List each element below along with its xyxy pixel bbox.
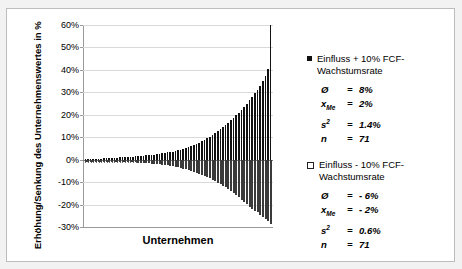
bar-positive [249, 100, 251, 159]
legend-stat-equals: = [347, 224, 359, 238]
legend-positive-head: Einfluss + 10% FCF-Wachstumsrate [307, 53, 457, 76]
bar-positive [270, 25, 272, 160]
y-tick-label: 20% [61, 110, 79, 120]
plot-canvas: 60%50%40%30%20%10%0%-10%-20%-30% [83, 25, 273, 227]
bar-positive [198, 143, 200, 160]
legend-stat-symbol: s2 [321, 115, 347, 132]
bar-positive [182, 149, 184, 160]
legend-positive: Einfluss + 10% FCF-Wachstumsrate Ø=8%xMe… [307, 53, 457, 146]
bar-positive [246, 104, 248, 160]
y-tick-50 [80, 47, 83, 48]
bar-positive [167, 152, 169, 159]
bar-positive [164, 153, 166, 160]
bar-positive [204, 140, 206, 160]
legend-negative-head: Einfluss - 10% FCF-Wachstumsrate [307, 159, 457, 182]
legend-stat-symbol: xMe [321, 97, 347, 115]
bar-positive [243, 107, 245, 160]
bar-positive [222, 127, 224, 159]
bar-positive [212, 135, 214, 160]
legend-stat-symbol: Ø [321, 189, 347, 203]
bar-positive [180, 150, 182, 160]
bar-positive [190, 146, 192, 159]
legend-positive-stats: Ø=8%xMe=2%s2=1.4%n=71 [321, 83, 457, 146]
y-tick--30 [80, 227, 83, 228]
bar-positive [196, 144, 198, 160]
y-tick-label: 0% [66, 155, 79, 165]
bar-positive [251, 97, 253, 160]
y-tick-label: -10% [58, 177, 79, 187]
hollow-square-icon [307, 162, 314, 169]
y-tick--10 [80, 182, 83, 183]
legend-negative-stats: Ø=- 6%xMe=- 2%s2=0.6%n=71 [321, 189, 457, 252]
bar-positive [172, 152, 174, 160]
legend-stat-equals: = [347, 97, 359, 111]
legend-stat-value: 71 [359, 132, 370, 146]
legend-stat-symbol: xMe [321, 203, 347, 221]
y-tick-label: 50% [61, 42, 79, 52]
legend-stat-value: 8% [359, 83, 373, 97]
bar-positive [169, 152, 171, 160]
legend-stat-equals: = [347, 203, 359, 217]
bar-positive [230, 120, 232, 159]
legend-stat-equals: = [347, 189, 359, 203]
bar-positive [257, 90, 259, 160]
filled-square-icon [307, 56, 312, 61]
bar-positive [206, 138, 208, 159]
y-axis-title-text: Erhöhung/Senkung des Unternehmenswertes … [32, 21, 45, 249]
bar-positive [201, 141, 203, 159]
legend-stat-value: - 2% [359, 203, 379, 217]
bar-positive [262, 81, 264, 160]
legend-stat-equals: = [347, 238, 359, 252]
y-tick-30 [80, 92, 83, 93]
bar-positive [267, 69, 269, 160]
bar-positive [259, 86, 261, 160]
legend-stat-row: xMe=2% [321, 97, 457, 115]
bar-positive [235, 115, 237, 159]
legend-stat-row: Ø=- 6% [321, 189, 457, 203]
gridline--30 [83, 227, 273, 228]
bars-container [84, 25, 273, 227]
bar-positive [254, 93, 256, 159]
bar-positive [209, 137, 211, 160]
y-tick-label: 40% [61, 65, 79, 75]
legend-stat-row: xMe=- 2% [321, 203, 457, 221]
bar-negative [270, 160, 272, 224]
bar-positive [225, 125, 227, 160]
bar-positive [175, 151, 177, 160]
y-tick-10 [80, 137, 83, 138]
y-tick-label: 10% [61, 132, 79, 142]
legend-stat-equals: = [347, 83, 359, 97]
y-tick-label: -20% [58, 200, 79, 210]
legend-negative-label: Einfluss - 10% FCF-Wachstumsrate [319, 159, 451, 182]
y-tick-label: -30% [58, 222, 79, 232]
legend-stat-equals: = [347, 132, 359, 146]
legend-stat-row: Ø=8% [321, 83, 457, 97]
legend-stat-value: 0.6% [359, 224, 381, 238]
legend-stat-row: n=71 [321, 238, 457, 252]
bar-positive [233, 118, 235, 160]
y-tick-label: 30% [61, 87, 79, 97]
bar-positive [241, 110, 243, 160]
plot-area: 60%50%40%30%20%10%0%-10%-20%-30% [83, 25, 273, 227]
bar-positive [177, 150, 179, 159]
bar-positive [185, 148, 187, 160]
legend-stat-symbol: s2 [321, 221, 347, 238]
legend-stat-value: - 6% [359, 189, 379, 203]
bar-positive [220, 129, 222, 159]
legend-stat-row: n=71 [321, 132, 457, 146]
bar-positive [188, 147, 190, 160]
bar-positive [217, 131, 219, 159]
bar-positive [238, 113, 240, 160]
y-tick-0 [80, 160, 83, 161]
y-tick-60 [80, 25, 83, 26]
y-tick-20 [80, 115, 83, 116]
legend-stat-value: 71 [359, 238, 370, 252]
bar-positive [193, 145, 195, 160]
legend-negative: Einfluss - 10% FCF-Wachstumsrate Ø=- 6%x… [307, 159, 457, 252]
legend-positive-label: Einfluss + 10% FCF-Wachstumsrate [317, 53, 449, 76]
y-axis-title: Erhöhung/Senkung des Unternehmenswertes … [13, 37, 63, 233]
bar-positive [214, 133, 216, 159]
legend-stat-equals: = [347, 118, 359, 132]
bar-positive [227, 123, 229, 160]
y-tick-label: 60% [61, 20, 79, 30]
